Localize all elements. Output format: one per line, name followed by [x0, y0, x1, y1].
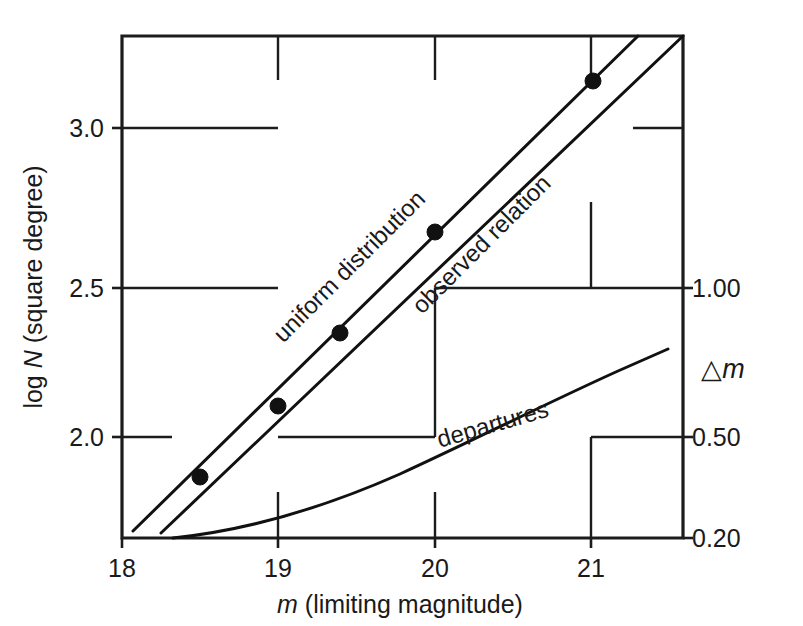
data-point-4 [427, 224, 443, 240]
ytick-label-2.0: 2.0 [69, 423, 104, 451]
xtick-label-21: 21 [577, 554, 605, 582]
x-axis-title-symbol: m [277, 590, 298, 618]
bottom-axis-labels: 18 19 20 21 [108, 554, 605, 582]
series-uniform-distribution [133, 36, 638, 531]
xtick-label-19: 19 [264, 554, 292, 582]
figure-container: 3.0 2.5 2.0 log N (square degree) 18 19 [0, 0, 803, 626]
chart-svg: 3.0 2.5 2.0 log N (square degree) 18 19 [0, 0, 803, 626]
right-axis-labels: 1.00 0.50 0.20 [692, 274, 741, 552]
ytick-label-3.0: 3.0 [69, 114, 104, 142]
xtick-label-18: 18 [108, 554, 136, 582]
y-axis-title-symbol: N [19, 349, 47, 368]
departures-curve [173, 349, 668, 538]
x-axis-title: m (limiting magnitude) [277, 590, 523, 618]
data-point-5 [585, 73, 601, 89]
y-axis-title-rest: (square degree) [19, 165, 47, 350]
delta-glyph-icon: △ [701, 354, 722, 384]
ytick-label-2.5: 2.5 [69, 274, 104, 302]
y-axis-title-prefix: log [19, 368, 47, 408]
annotation-departures: departures [434, 395, 552, 453]
series-departures [173, 349, 668, 538]
annotation-uniform-distribution: uniform distribution [268, 185, 430, 347]
y2tick-label-0.20: 0.20 [692, 524, 741, 552]
y2-axis-title: △m [701, 354, 745, 384]
x-axis-title-rest: (limiting magnitude) [298, 590, 523, 618]
y2-axis-title-symbol: m [722, 354, 745, 384]
data-point-3 [332, 325, 348, 341]
curve-annotations: uniform distribution observed relation d… [268, 169, 556, 452]
y2tick-label-0.50: 0.50 [692, 423, 741, 451]
svg-text:log N (square degree): log N (square degree) [19, 165, 47, 408]
left-axis-labels: 3.0 2.5 2.0 [69, 114, 104, 451]
left-axis-ticks [112, 128, 278, 437]
data-point-2 [270, 398, 286, 414]
uniform-distribution-line [133, 36, 638, 531]
data-point-1 [192, 469, 208, 485]
y-axis-title: log N (square degree) [19, 165, 47, 408]
y2tick-label-1.00: 1.00 [692, 274, 741, 302]
xtick-label-20: 20 [421, 554, 449, 582]
